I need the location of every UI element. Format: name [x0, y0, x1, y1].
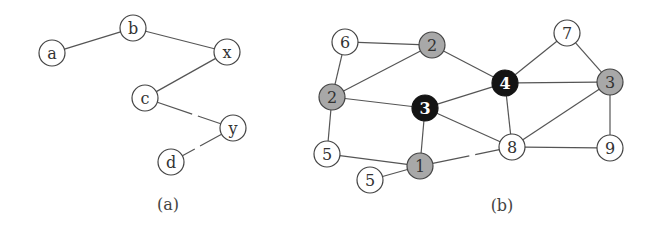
edge-n3black-n4black	[437, 87, 492, 104]
node-label: 8	[507, 138, 517, 157]
node-n2left: 2	[319, 84, 345, 110]
node-label: 3	[605, 73, 615, 92]
node-n9: 9	[597, 135, 623, 161]
panel-a: abxcyd (a)	[39, 15, 246, 214]
edge-n5low-n1	[383, 170, 408, 177]
edge-n3black-n1	[421, 121, 424, 153]
panel-b-edges	[328, 41, 610, 176]
node-n2top: 2	[419, 32, 445, 58]
edge-c-y	[157, 102, 220, 124]
edge-n4black-n8	[506, 96, 510, 134]
edge-n2left-n2top	[344, 51, 421, 91]
node-label: x	[222, 43, 231, 62]
node-label: 2	[327, 88, 337, 107]
node-n5low: 5	[357, 167, 383, 193]
edge-n7-n3gray	[576, 43, 602, 72]
node-d: d	[158, 149, 184, 175]
edge-n5left-n1	[340, 156, 407, 165]
edge-b-x	[146, 31, 215, 49]
node-label: c	[141, 89, 150, 108]
node-a: a	[39, 40, 65, 66]
edge-n3gray-n8	[523, 89, 599, 140]
edge-n6-n2top	[358, 42, 419, 44]
node-label: 6	[340, 33, 350, 52]
node-c: c	[132, 85, 158, 111]
edge-n6-n2left	[335, 55, 342, 85]
node-n1: 1	[407, 153, 433, 179]
graph-figure: abxcyd (a) 622347389515 (b)	[0, 0, 657, 235]
node-label: 7	[562, 24, 572, 43]
node-label: a	[47, 44, 57, 63]
edge-n2left-n5left	[328, 110, 331, 141]
node-n3gray: 3	[597, 69, 623, 95]
edge-n8-n9	[525, 147, 597, 148]
node-label: y	[227, 119, 237, 138]
panel-a-nodes: abxcyd	[39, 15, 246, 175]
edge-x-c	[156, 58, 215, 91]
panel-a-caption: (a)	[157, 195, 179, 214]
node-label: 1	[415, 157, 425, 176]
node-label: 4	[499, 74, 510, 93]
node-label: 3	[419, 99, 430, 118]
node-n5left: 5	[314, 141, 340, 167]
node-n7: 7	[554, 20, 580, 46]
panel-b-nodes: 622347389515	[314, 20, 623, 193]
edge-n4black-n7	[515, 41, 557, 75]
node-label: 5	[322, 145, 332, 164]
edge-n4black-n3gray	[518, 82, 597, 83]
node-n6: 6	[332, 29, 358, 55]
node-label: b	[128, 19, 138, 38]
edge-n2top-n4black	[444, 51, 494, 77]
panel-b-caption: (b)	[491, 196, 514, 215]
edge-y-d	[182, 134, 221, 155]
node-n4black: 4	[492, 70, 518, 96]
node-n3black: 3	[412, 95, 438, 121]
edge-n3black-n8	[437, 113, 500, 141]
panel-b: 622347389515 (b)	[314, 20, 623, 215]
node-label: 2	[427, 36, 437, 55]
node-n8: 8	[499, 134, 525, 160]
node-y: y	[220, 115, 246, 141]
node-label: 5	[365, 171, 375, 190]
edge-n2left-n3black	[345, 99, 412, 107]
edge-n1-n8	[433, 150, 500, 164]
node-label: 9	[605, 139, 615, 158]
node-label: d	[166, 153, 176, 172]
node-b: b	[120, 15, 146, 41]
edge-a-b	[64, 32, 120, 49]
node-x: x	[214, 39, 240, 65]
